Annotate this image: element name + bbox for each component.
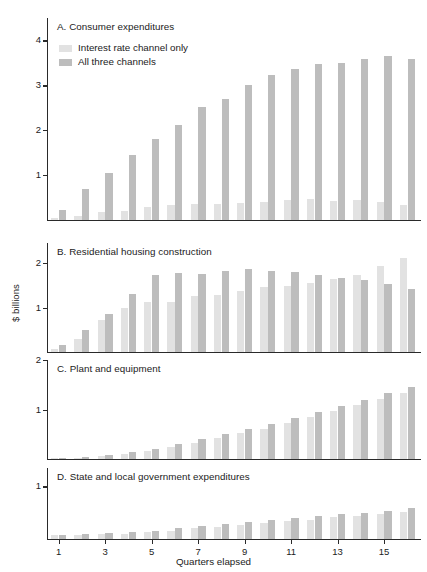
bar	[338, 278, 345, 352]
y-tick-b-2	[43, 263, 48, 264]
x-tick-15	[384, 540, 385, 544]
bar	[291, 518, 298, 539]
x-tick-5	[152, 540, 153, 544]
bar	[129, 155, 136, 220]
bar	[198, 107, 205, 220]
bar	[175, 528, 182, 539]
bar	[384, 511, 391, 539]
bar	[260, 202, 267, 220]
bar	[82, 457, 89, 459]
bar	[214, 438, 221, 459]
bar	[284, 423, 291, 459]
y-tick-label-d-1: 1	[17, 480, 41, 491]
bar	[330, 279, 337, 352]
bar	[59, 535, 66, 539]
bar	[152, 139, 159, 220]
bar	[245, 429, 252, 459]
bar	[408, 59, 415, 220]
bar	[82, 189, 89, 220]
bar	[377, 514, 384, 539]
bar	[222, 434, 229, 459]
bar	[167, 531, 174, 539]
bar	[214, 204, 221, 220]
bar	[152, 449, 159, 459]
bar	[167, 447, 174, 459]
bar	[175, 273, 182, 352]
bar	[51, 218, 58, 220]
bar	[400, 393, 407, 459]
legend-item-light: Interest rate channel only	[59, 42, 289, 56]
bar	[307, 199, 314, 220]
bar	[384, 284, 391, 352]
bar	[307, 417, 314, 459]
bar	[408, 508, 415, 539]
bar	[222, 524, 229, 539]
bar	[245, 85, 252, 220]
bar	[59, 345, 66, 352]
bar	[129, 452, 136, 459]
bar	[307, 520, 314, 539]
y-tick-label-a-2: 2	[17, 124, 41, 135]
bar	[284, 200, 291, 220]
x-tick-1	[59, 540, 60, 544]
bar	[315, 275, 322, 352]
bar	[51, 535, 58, 539]
bar	[353, 200, 360, 220]
bar	[338, 406, 345, 459]
y-tick-label-c-1: 1	[17, 404, 41, 415]
y-tick-label-b-2: 2	[17, 257, 41, 268]
bar	[260, 287, 267, 352]
bar	[268, 75, 275, 220]
bar	[98, 456, 105, 459]
bar	[400, 258, 407, 352]
x-axis-line-b	[47, 352, 421, 353]
bar	[222, 271, 229, 352]
bar	[330, 411, 337, 459]
y-tick-a-3	[43, 85, 48, 86]
x-tick-7	[198, 540, 199, 544]
y-axis-line-a	[47, 18, 48, 221]
panel-d: 1D. State and local government expenditu…	[0, 0, 427, 572]
panel-title-b: B. Residential housing construction	[57, 246, 212, 257]
bar	[361, 59, 368, 220]
x-tick-13	[338, 540, 339, 544]
bar	[191, 443, 198, 459]
bar	[121, 308, 128, 352]
bar	[121, 454, 128, 459]
bar	[144, 207, 151, 220]
y-tick-label-a-1: 1	[17, 169, 41, 180]
y-axis-label: $ billions	[10, 284, 21, 322]
bar	[237, 203, 244, 220]
bar	[74, 458, 81, 459]
y-tick-label-a-3: 3	[17, 79, 41, 90]
bar	[198, 526, 205, 539]
bar	[198, 439, 205, 459]
x-tick-11	[291, 540, 292, 544]
y-axis-line-d	[47, 468, 48, 540]
bar	[214, 295, 221, 352]
bar	[98, 320, 105, 352]
y-tick-a-1	[43, 175, 48, 176]
bar	[361, 280, 368, 352]
bar	[98, 212, 105, 220]
bar	[98, 534, 105, 539]
bar	[222, 99, 229, 220]
legend-swatch-light	[59, 45, 72, 52]
bar	[167, 302, 174, 352]
bar	[338, 514, 345, 539]
bar	[144, 532, 151, 539]
bar	[315, 516, 322, 539]
bar	[74, 535, 81, 539]
bar	[245, 522, 252, 539]
bar	[245, 269, 252, 352]
legend-swatch-dark	[59, 59, 72, 66]
bar	[191, 528, 198, 539]
x-axis-line-c	[47, 459, 421, 460]
bar	[191, 204, 198, 220]
bar	[361, 513, 368, 539]
y-tick-c-2	[43, 360, 48, 361]
y-tick-b-1	[43, 308, 48, 309]
bar	[237, 433, 244, 459]
bar	[74, 339, 81, 352]
bar	[105, 173, 112, 220]
